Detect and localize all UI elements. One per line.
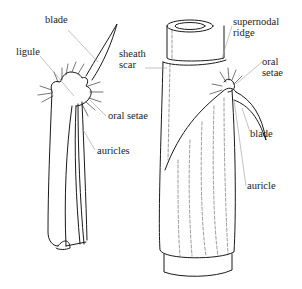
label-blade-right: blade — [250, 128, 273, 139]
right-culm-drawing — [159, 20, 266, 276]
label-oral-setae-right: oral setae — [262, 56, 283, 78]
leader-lines — [40, 26, 262, 186]
label-sheath-scar: sheath scar — [119, 48, 146, 70]
label-supernodal-ridge: supernodal ridge — [233, 16, 279, 38]
label-auricles: auricles — [97, 145, 130, 156]
diagram-canvas: blade ligule oral setae auricles sheath … — [0, 0, 302, 289]
label-blade-left: blade — [45, 14, 68, 25]
left-sheath-drawing — [48, 24, 117, 250]
right-setae — [210, 68, 242, 94]
label-auricle: auricle — [247, 180, 276, 191]
illustration — [0, 0, 302, 289]
label-ligule: ligule — [16, 46, 40, 57]
label-oral-setae-left: oral setae — [108, 110, 148, 121]
left-setae — [38, 62, 103, 116]
